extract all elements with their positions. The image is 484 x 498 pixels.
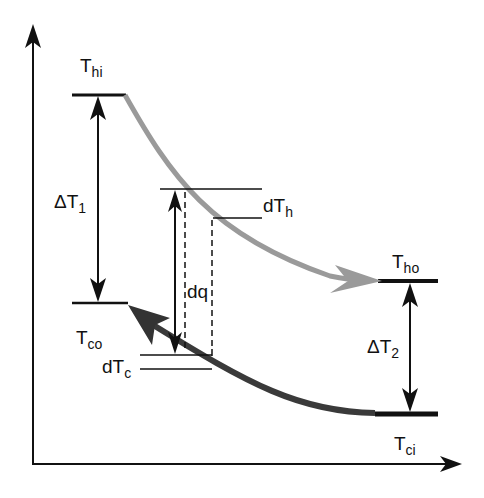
label-dt-h: dTh — [263, 195, 293, 220]
hot-stream-curve — [125, 95, 360, 280]
diagram-canvas: Thi ΔT1 dTh dq Tco dTc Tho ΔT2 Tci — [0, 0, 484, 498]
label-t-co: Tco — [76, 327, 103, 352]
label-delta-t1: ΔT1 — [54, 191, 86, 216]
heat-exchanger-diagram: Thi ΔT1 dTh dq Tco dTc Tho ΔT2 Tci — [0, 0, 484, 498]
cold-stream-curve — [150, 323, 375, 413]
label-delta-t2: ΔT2 — [367, 336, 399, 361]
label-t-ho: Tho — [392, 251, 419, 276]
label-t-hi: Thi — [80, 55, 103, 80]
label-dt-c: dTc — [102, 356, 131, 381]
cold-stream-arrowhead — [128, 305, 170, 345]
label-dq: dq — [187, 281, 208, 302]
label-t-ci: Tci — [394, 433, 416, 458]
